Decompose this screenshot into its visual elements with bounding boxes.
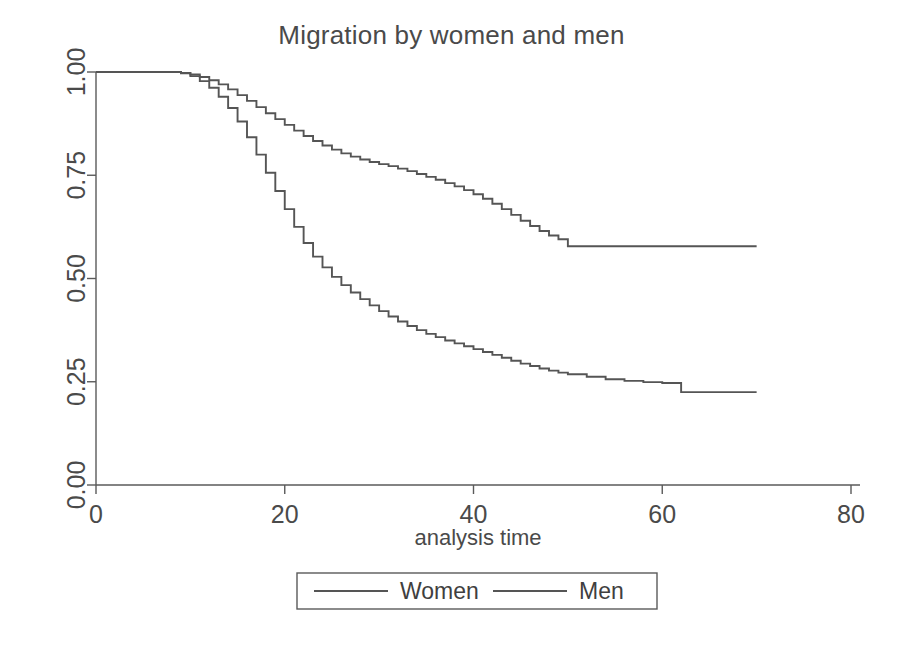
y-tick-label-1: 0.25 (62, 357, 90, 406)
x-axis-tick-labels: 020406080 (89, 500, 865, 528)
x-tick-label-2: 40 (460, 500, 488, 528)
legend-label-men: Men (579, 578, 624, 604)
chart-legend: Women Men (297, 573, 657, 609)
y-tick-label-2: 0.50 (62, 254, 90, 303)
x-tick-label-0: 0 (89, 500, 103, 528)
x-tick-label-1: 20 (271, 500, 299, 528)
x-tick-label-3: 60 (648, 500, 676, 528)
series-line-men (96, 72, 757, 392)
series-lines (96, 72, 757, 392)
y-axis-tick-labels: 0.000.250.500.751.00 (62, 48, 90, 510)
chart-figure: Migration by women and men 0.000.250.500… (0, 0, 903, 651)
series-line-women (96, 72, 757, 246)
y-tick-label-3: 0.75 (62, 151, 90, 200)
plot-canvas: 0.000.250.500.751.00 020406080 analysis … (0, 0, 903, 651)
x-tick-label-4: 80 (837, 500, 865, 528)
y-tick-label-0: 0.00 (62, 461, 90, 510)
x-axis-title: analysis time (414, 525, 541, 550)
legend-label-women: Women (400, 578, 479, 604)
x-axis-ticks (96, 485, 851, 494)
y-tick-label-4: 1.00 (62, 48, 90, 97)
